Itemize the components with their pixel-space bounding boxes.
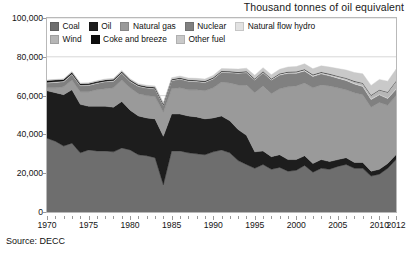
- source-note: Source: DECC: [6, 236, 65, 246]
- y-tick-mark: [43, 57, 46, 58]
- x-tick-mark: [238, 216, 239, 219]
- x-tick-label: 1995: [245, 220, 264, 230]
- x-tick-mark: [180, 216, 181, 219]
- x-tick-label: 1975: [79, 220, 98, 230]
- x-tick-label: 1980: [121, 220, 140, 230]
- x-tick-mark: [280, 216, 281, 219]
- chart-page: Thousand tonnes of oil equivalent CoalOi…: [0, 0, 412, 256]
- x-tick-mark: [396, 216, 397, 220]
- x-axis-labels: 1970197519801985199019952000200520102012: [0, 216, 412, 232]
- x-tick-mark: [296, 216, 297, 220]
- x-tick-mark: [379, 216, 380, 220]
- x-tick-mark: [163, 216, 164, 219]
- y-tick-mark: [43, 173, 46, 174]
- y-tick-mark: [43, 134, 46, 135]
- plot-area: [46, 17, 397, 213]
- x-tick-mark: [72, 216, 73, 219]
- x-tick-mark: [47, 216, 48, 220]
- x-tick-mark: [105, 216, 106, 219]
- x-tick-mark: [346, 216, 347, 219]
- y-tick-label: 20,000: [17, 168, 43, 178]
- x-tick-mark: [155, 216, 156, 219]
- y-tick-label: 60,000: [17, 91, 43, 101]
- y-tick-label: 40,000: [17, 129, 43, 139]
- x-tick-mark: [363, 216, 364, 219]
- stacked-area-plot: [47, 18, 396, 212]
- x-tick-mark: [388, 216, 389, 219]
- y-axis-labels: 020,00040,00060,00080,000100,000: [0, 0, 46, 230]
- x-tick-mark: [263, 216, 264, 219]
- x-tick-mark: [330, 216, 331, 219]
- x-tick-mark: [172, 216, 173, 220]
- y-tick-label: 80,000: [17, 52, 43, 62]
- x-tick-mark: [313, 216, 314, 219]
- chart-unit-title: Thousand tonnes of oil equivalent: [244, 1, 404, 13]
- x-tick-mark: [246, 216, 247, 219]
- x-tick-label: 1985: [162, 220, 181, 230]
- x-tick-mark: [230, 216, 231, 219]
- x-tick-label: 1990: [204, 220, 223, 230]
- x-tick-mark: [130, 216, 131, 220]
- x-tick-mark: [197, 216, 198, 219]
- y-tick-mark: [43, 212, 46, 213]
- x-tick-mark: [147, 216, 148, 219]
- x-tick-mark: [255, 216, 256, 220]
- x-tick-mark: [80, 216, 81, 219]
- x-tick-mark: [97, 216, 98, 219]
- x-tick-mark: [271, 216, 272, 219]
- x-tick-mark: [113, 216, 114, 219]
- x-tick-mark: [64, 216, 65, 219]
- x-tick-mark: [288, 216, 289, 219]
- x-tick-mark: [338, 216, 339, 220]
- x-tick-mark: [354, 216, 355, 219]
- x-tick-mark: [305, 216, 306, 219]
- x-tick-mark: [222, 216, 223, 219]
- x-tick-mark: [371, 216, 372, 219]
- x-tick-mark: [55, 216, 56, 219]
- x-tick-mark: [89, 216, 90, 220]
- x-tick-label: 2000: [287, 220, 306, 230]
- x-tick-label: 1970: [37, 220, 56, 230]
- x-tick-mark: [321, 216, 322, 219]
- x-tick-label: 2005: [328, 220, 347, 230]
- x-tick-mark: [188, 216, 189, 219]
- y-tick-mark: [43, 18, 46, 19]
- x-tick-mark: [205, 216, 206, 219]
- x-tick-mark: [213, 216, 214, 220]
- x-tick-mark: [138, 216, 139, 219]
- y-tick-label: 100,000: [12, 13, 43, 23]
- x-tick-mark: [122, 216, 123, 219]
- x-tick-label: 2012: [386, 220, 405, 230]
- y-tick-mark: [43, 96, 46, 97]
